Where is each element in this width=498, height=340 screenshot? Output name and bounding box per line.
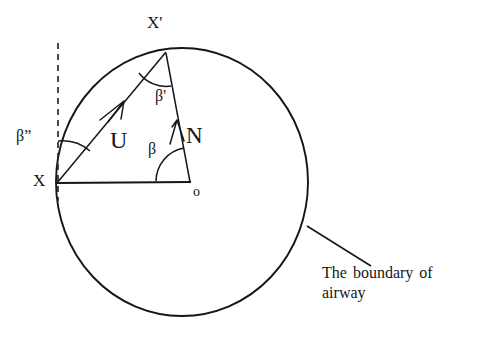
airway-boundary-diagram: X X' o U N β β' β” The boundary of airwa…: [0, 0, 498, 340]
vector-u-arrowhead: [100, 101, 124, 122]
segment-o-xprime: [166, 53, 190, 182]
label-vector-n: N: [186, 124, 203, 147]
label-point-x-prime: X': [147, 14, 162, 31]
label-angle-beta-double-prime: β”: [16, 128, 31, 144]
label-point-x: X: [33, 172, 45, 189]
label-vector-u: U: [110, 128, 127, 152]
angle-arc-beta: [156, 148, 184, 181]
segment-x-o: [57, 182, 191, 183]
boundary-caption: The boundary of airway: [322, 263, 494, 302]
label-angle-beta-prime: β': [155, 88, 166, 104]
caption-line-2: airway: [322, 283, 494, 303]
label-angle-beta: β: [148, 141, 156, 157]
caption-line-1: The boundary of: [322, 263, 494, 283]
label-point-o: o: [193, 185, 200, 199]
caption-leader-line: [307, 226, 371, 266]
